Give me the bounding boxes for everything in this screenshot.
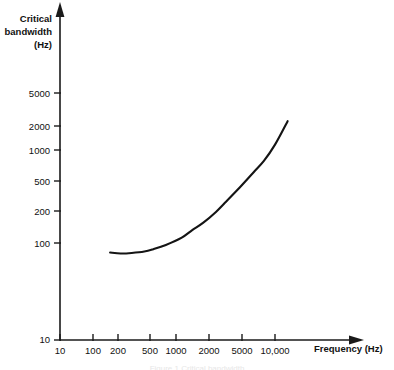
y-tick-label-500: 500 <box>6 176 50 188</box>
x-axis-title: Frequency (Hz) <box>314 343 383 355</box>
figure-container: Critical bandwidth (Hz) 5000 2000 1000 5… <box>0 0 394 370</box>
figure-caption: Figure 1 Critical bandwidth <box>0 364 394 370</box>
chart-canvas <box>0 0 394 370</box>
x-tick-label-10000: 10,000 <box>254 345 296 357</box>
y-axis-arrowhead <box>56 2 65 17</box>
y-axis-title-line-1: Critical <box>0 12 52 25</box>
y-tick-label-2000: 2000 <box>6 121 50 133</box>
critical-bandwidth-curve <box>110 121 288 253</box>
y-axis-title-line-2: bandwidth <box>0 25 52 38</box>
y-axis-title: Critical bandwidth (Hz) <box>0 12 52 51</box>
y-tick-label-200: 200 <box>6 206 50 218</box>
y-tick-label-1000: 1000 <box>6 145 50 157</box>
y-axis-title-line-3: (Hz) <box>0 38 52 51</box>
y-tick-label-100: 100 <box>6 238 50 250</box>
y-tick-label-5000: 5000 <box>6 88 50 100</box>
